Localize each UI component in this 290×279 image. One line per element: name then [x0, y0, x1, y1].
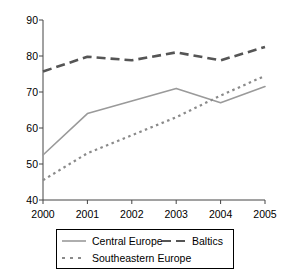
series-line-baltics [43, 47, 265, 71]
x-axis-tick-marks [43, 200, 265, 204]
y-axis-tick-label: 90 [16, 15, 38, 26]
x-axis-tick-label: 2000 [26, 209, 60, 220]
legend-label-central-europe: Central Europe [92, 236, 163, 247]
chart-figure: 405060708090 200020012002200320042005 Ce… [0, 0, 290, 279]
chart-series-group [43, 47, 265, 180]
chart-legend: Central Europe Southeastern Europe Balti… [56, 229, 234, 269]
chart-axes [39, 20, 265, 204]
legend-item-baltics[interactable]: Baltics [161, 233, 223, 249]
y-axis-tick-label: 80 [16, 51, 38, 62]
legend-label-southeastern-europe: Southeastern Europe [92, 253, 191, 264]
y-axis-tick-marks [39, 20, 43, 200]
x-axis-tick-label: 2004 [204, 209, 238, 220]
y-axis-tick-label: 60 [16, 123, 38, 134]
y-axis-tick-label: 70 [16, 87, 38, 98]
y-axis-tick-label: 40 [16, 195, 38, 206]
x-axis-tick-label: 2005 [248, 209, 282, 220]
series-line-southeastern-europe [43, 76, 265, 180]
axis-spines [43, 20, 265, 200]
x-axis-tick-label: 2003 [159, 209, 193, 220]
legend-swatch-dotted-line [61, 253, 87, 263]
legend-swatch-dashed-line [161, 236, 187, 246]
series-line-central-europe [43, 87, 265, 155]
legend-label-baltics: Baltics [192, 236, 223, 247]
x-axis-tick-label: 2002 [115, 209, 149, 220]
y-axis-tick-label: 50 [16, 159, 38, 170]
legend-swatch-solid-line [61, 236, 87, 246]
x-axis-tick-label: 2001 [70, 209, 104, 220]
legend-item-central-europe[interactable]: Central Europe [61, 233, 163, 249]
legend-item-southeastern-europe[interactable]: Southeastern Europe [61, 250, 191, 266]
